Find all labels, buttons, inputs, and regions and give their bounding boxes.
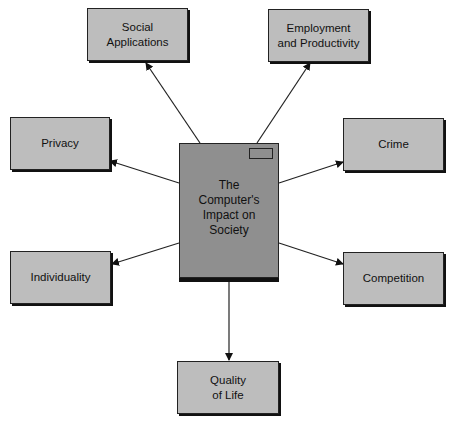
node-crime: Crime bbox=[343, 118, 444, 171]
central-computer-box: The Computer's Impact on Society bbox=[179, 143, 279, 278]
arrow-to-crime bbox=[279, 162, 343, 183]
arrow-to-social-applications bbox=[146, 63, 200, 143]
node-individuality: Individuality bbox=[10, 251, 111, 304]
arrow-to-individuality bbox=[112, 243, 179, 264]
node-competition: Competition bbox=[343, 252, 444, 305]
node-quality-of-life: Quality of Life bbox=[177, 361, 279, 414]
center-label: The Computer's Impact on Society bbox=[180, 178, 278, 238]
disk-slot-icon bbox=[249, 148, 273, 159]
node-employment-and-productivity: Employment and Productivity bbox=[268, 9, 369, 62]
arrow-to-privacy bbox=[110, 161, 179, 183]
arrow-to-employment bbox=[257, 63, 310, 143]
node-social-applications: Social Applications bbox=[87, 8, 188, 61]
node-privacy: Privacy bbox=[10, 117, 110, 170]
arrow-to-competition bbox=[279, 243, 343, 264]
